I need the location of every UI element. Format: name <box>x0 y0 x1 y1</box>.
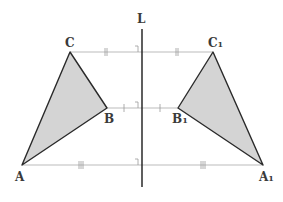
label-a: A <box>14 170 25 184</box>
right-angle-marks <box>135 46 138 165</box>
label-b1: B1 <box>172 112 188 126</box>
triangle-a1b1c1 <box>178 52 263 165</box>
label-c: C <box>65 36 75 50</box>
label-b: B <box>104 112 114 126</box>
label-c1: C1 <box>208 36 223 50</box>
triangle-abc <box>22 52 107 165</box>
label-a1: A1 <box>258 170 274 184</box>
reflection-diagram: L C B A C1 B1 A1 <box>0 0 283 202</box>
axis-label: L <box>137 12 146 26</box>
